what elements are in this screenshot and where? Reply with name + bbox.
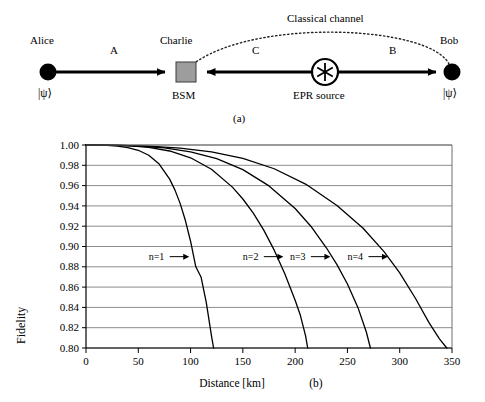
xtick-label: 100	[182, 355, 199, 367]
ytick-label: 0.98	[60, 159, 80, 171]
xtick-label: 150	[235, 355, 252, 367]
chart-curve-annotations: n=1n=2n=3n=4	[149, 251, 388, 262]
chart-canvas: 0.800.820.840.860.880.900.920.940.960.98…	[0, 132, 485, 402]
curve-label-n2: n=2	[243, 251, 259, 262]
ytick-label: 0.90	[60, 240, 80, 252]
epr-source-label: EPR source	[293, 90, 345, 101]
ytick-label: 0.88	[60, 260, 80, 272]
panel-a-teleportation-diagram: Alice |ψ⟩ Charlie BSM EPR source Bob |ψ⟩…	[0, 0, 485, 132]
bsm-label: BSM	[172, 90, 195, 101]
xtick-label: 300	[391, 355, 408, 367]
figure-root: Alice |ψ⟩ Charlie BSM EPR source Bob |ψ⟩…	[0, 0, 485, 402]
chart-ytick-labels: 0.800.820.840.860.880.900.920.940.960.98…	[60, 139, 80, 354]
curve-label-n3: n=3	[290, 251, 306, 262]
panel-a-caption: (a)	[233, 113, 245, 124]
classical-channel-label: Classical channel	[287, 13, 364, 24]
xtick-label: 0	[83, 355, 89, 367]
bob-label: Bob	[440, 35, 458, 46]
channel-a-label: A	[110, 45, 118, 56]
curve-label-n1: n=1	[149, 251, 165, 262]
chart-xtick-labels: 050100150200250300350	[83, 355, 461, 367]
bob-node-dot	[444, 64, 461, 81]
ytick-label: 0.84	[60, 301, 80, 313]
panel-b-caption: (b)	[309, 377, 323, 390]
curve-label-n4: n=4	[347, 251, 363, 262]
channel-b-label: B	[389, 45, 396, 56]
charlie-label: Charlie	[160, 35, 192, 46]
alice-state-ket: |ψ⟩	[38, 88, 52, 100]
charlie-bsm-box	[176, 62, 196, 82]
ytick-label: 0.82	[60, 321, 79, 333]
alice-label: Alice	[30, 35, 54, 46]
ytick-label: 0.94	[60, 200, 80, 212]
chart-gridlines	[86, 145, 452, 348]
xtick-label: 50	[133, 355, 145, 367]
ytick-label: 0.92	[60, 220, 79, 232]
alice-node-dot	[40, 64, 57, 81]
chart-tick-marks	[82, 145, 452, 353]
ytick-label: 0.86	[60, 281, 80, 293]
chart-xlabel: Distance [km]	[199, 377, 264, 389]
xtick-label: 350	[444, 355, 461, 367]
xtick-label: 250	[339, 355, 356, 367]
ytick-label: 0.96	[60, 179, 80, 191]
channel-c-label: C	[252, 45, 259, 56]
chart-ylabel: Fidelity	[14, 307, 29, 344]
panel-b-fidelity-chart: Fidelity 0.800.820.840.860.880.900.920.9…	[0, 132, 485, 402]
bob-state-ket: |ψ⟩	[443, 88, 457, 100]
xtick-label: 200	[287, 355, 304, 367]
ytick-label: 0.80	[60, 342, 80, 354]
ytick-label: 1.00	[60, 139, 80, 151]
